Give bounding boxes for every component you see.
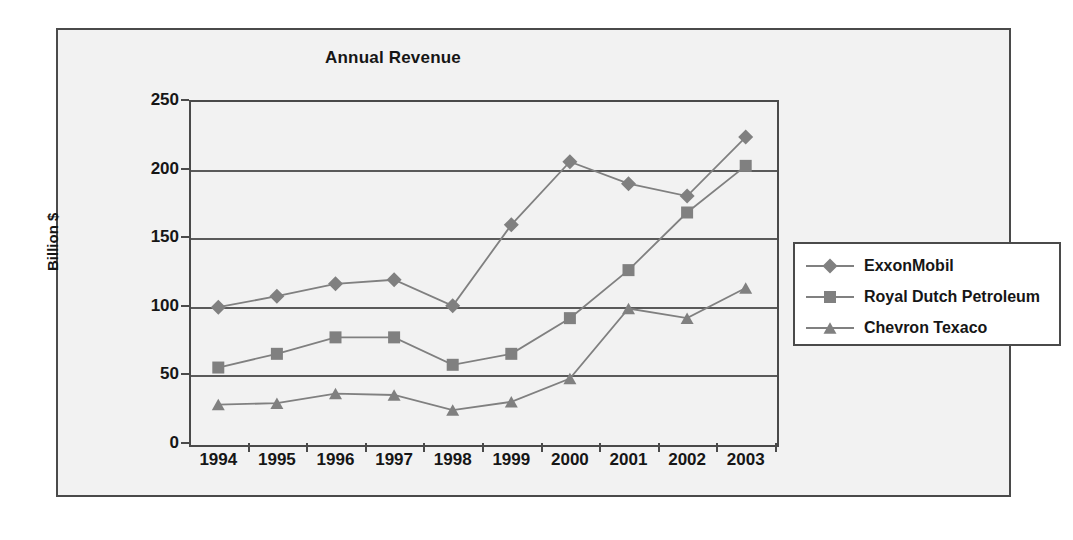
legend-item-chevron-texaco[interactable]: Chevron Texaco xyxy=(795,312,1059,343)
legend-item-royal-dutch-petroleum[interactable]: Royal Dutch Petroleum xyxy=(795,281,1059,312)
data-point-marker xyxy=(445,298,460,313)
x-axis-tick-label: 1997 xyxy=(375,450,413,470)
x-axis-tick-mark xyxy=(482,443,484,452)
y-axis-tick-label: 250 xyxy=(131,90,179,110)
x-axis-tick-mark xyxy=(541,443,543,452)
y-axis-title: Billion $ xyxy=(44,213,61,271)
x-axis-tick-mark xyxy=(248,443,250,452)
y-axis-tick-label: 200 xyxy=(131,159,179,179)
y-axis-tick-mark xyxy=(181,442,189,444)
y-axis-tick-label: 0 xyxy=(131,433,179,453)
data-point-marker xyxy=(623,264,635,276)
figure-frame: Annual Revenue Billion $ 050100150200250… xyxy=(56,28,1011,497)
data-point-marker xyxy=(564,312,576,324)
data-point-marker xyxy=(269,289,284,304)
data-point-marker xyxy=(211,300,226,315)
data-point-marker xyxy=(328,276,343,291)
data-point-marker xyxy=(388,331,400,343)
y-axis-tick-mark xyxy=(181,236,189,238)
x-axis-tick-mark xyxy=(599,443,601,452)
y-axis-tick-labels: 050100150200250 xyxy=(121,100,179,443)
legend-item-exxonmobil[interactable]: ExxonMobil xyxy=(795,250,1059,281)
y-axis-tick-label: 150 xyxy=(131,227,179,247)
y-axis-tick-label: 50 xyxy=(131,364,179,384)
x-axis-tick-label: 1995 xyxy=(258,450,296,470)
y-axis-tick-mark xyxy=(181,305,189,307)
data-point-marker xyxy=(621,176,636,191)
x-axis-tick-label: 2000 xyxy=(551,450,589,470)
series-line xyxy=(218,288,745,410)
x-axis-tick-mark xyxy=(365,443,367,452)
data-point-marker xyxy=(740,160,752,172)
x-axis-tick-mark xyxy=(306,443,308,452)
data-point-marker xyxy=(447,359,459,371)
y-axis-tick-label: 100 xyxy=(131,296,179,316)
x-axis-tick-mark xyxy=(658,443,660,452)
y-axis-tick-mark xyxy=(181,373,189,375)
y-axis-tick-mark xyxy=(181,168,189,170)
x-axis-tick-label: 2003 xyxy=(727,450,765,470)
data-series-layer xyxy=(189,100,775,443)
data-point-marker xyxy=(330,331,342,343)
x-axis-tick-labels: 1994199519961997199819992000200120022003 xyxy=(189,450,775,480)
x-axis-tick-label: 1998 xyxy=(434,450,472,470)
x-axis-tick-label: 1994 xyxy=(199,450,237,470)
chart-legend: ExxonMobilRoyal Dutch PetroleumChevron T… xyxy=(793,242,1061,346)
legend-label: Chevron Texaco xyxy=(856,319,987,337)
data-point-marker xyxy=(563,373,576,385)
y-axis-tick-mark xyxy=(181,99,189,101)
legend-label: ExxonMobil xyxy=(856,257,954,275)
x-axis-tick-mark xyxy=(423,443,425,452)
data-point-marker xyxy=(271,348,283,360)
triangle-marker-icon xyxy=(804,318,856,338)
x-axis-tick-mark xyxy=(775,443,777,452)
square-marker-icon xyxy=(804,287,856,307)
x-axis-tick-mark xyxy=(716,443,718,452)
chart-page: Annual Revenue Billion $ 050100150200250… xyxy=(0,0,1073,540)
chart-title: Annual Revenue xyxy=(58,48,728,68)
legend-label: Royal Dutch Petroleum xyxy=(856,288,1040,306)
diamond-marker-icon xyxy=(804,256,856,276)
series-exxonmobil xyxy=(211,130,753,315)
data-point-marker xyxy=(212,362,224,374)
data-point-marker xyxy=(505,348,517,360)
x-axis-tick-label: 2001 xyxy=(610,450,648,470)
data-point-marker xyxy=(387,272,402,287)
series-line xyxy=(218,137,745,307)
x-axis-tick-label: 2002 xyxy=(668,450,706,470)
x-axis-tick-label: 1999 xyxy=(492,450,530,470)
data-point-marker xyxy=(739,282,752,294)
x-axis-tick-label: 1996 xyxy=(317,450,355,470)
data-point-marker xyxy=(681,207,693,219)
